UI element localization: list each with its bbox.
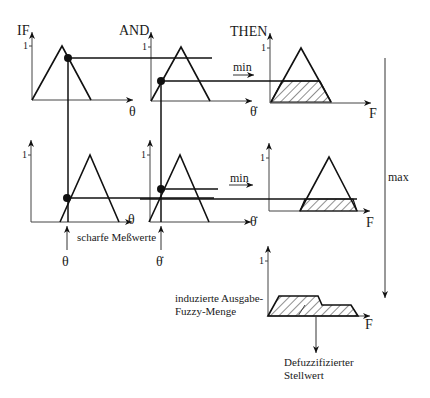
induced-output-line2: Fuzzy-Menge: [175, 305, 263, 318]
tick-one-r2-if: 1: [22, 150, 27, 160]
defuzz-line2: Stellwert: [284, 369, 354, 382]
tick-one-r1-if: 1: [23, 41, 28, 51]
axis-label-theta-r1: θ: [129, 105, 136, 119]
fuzzy-diagram-canvas: [0, 0, 430, 398]
axis-label-f-r1: F: [369, 107, 377, 121]
tick-one-r2-then: 1: [260, 153, 265, 163]
tick-one-r1-then: 1: [261, 43, 266, 53]
min-label-row1: min: [233, 61, 252, 73]
tick-one-r1-and: 1: [142, 42, 147, 52]
induced-output-line1: induzierte Ausgabe-: [175, 292, 263, 305]
defuzz-label: Defuzzifizierter Stellwert: [284, 356, 354, 382]
min-label-row2: min: [230, 172, 249, 184]
defuzz-line1: Defuzzifizierter: [284, 356, 354, 369]
tick-one-r2-and: 1: [141, 150, 146, 160]
crisp-input-theta: θ: [62, 255, 69, 269]
crisp-input-theta-dot: θ̇: [156, 255, 163, 269]
and-header: AND: [119, 24, 149, 38]
row2-if-plot: [28, 140, 132, 222]
axis-label-theta-dot-r1: θ̇: [250, 105, 257, 119]
axis-label-theta-dot-r2: θ̇: [250, 215, 257, 229]
then-header: THEN: [230, 25, 267, 39]
if-header: IF: [17, 24, 29, 38]
max-label: max: [388, 171, 409, 183]
axis-label-theta-r2: θ: [128, 213, 135, 227]
induced-output-label: induzierte Ausgabe- Fuzzy-Menge: [175, 292, 263, 318]
axis-label-f-output: F: [365, 318, 373, 332]
row1-then-plot: [267, 33, 371, 103]
row1-if-plot: [29, 32, 133, 100]
axis-label-f-r2: F: [366, 216, 374, 230]
row2-then-plot: [266, 143, 370, 211]
aggregated-output-plot: [265, 246, 370, 316]
tick-one-output: 1: [259, 256, 264, 266]
crisp-inputs-label: scharfe Meßwerte: [77, 231, 156, 244]
